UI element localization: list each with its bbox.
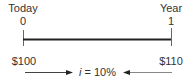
start-amount: $100 <box>6 55 42 67</box>
interest-rate-label: i = 10% <box>79 66 116 78</box>
end-amount: $110 <box>155 55 187 67</box>
right-arrow-head <box>123 70 130 75</box>
rate-equals: = <box>81 66 94 78</box>
rate-value: 10% <box>94 66 116 78</box>
left-arrow-head <box>66 70 73 75</box>
